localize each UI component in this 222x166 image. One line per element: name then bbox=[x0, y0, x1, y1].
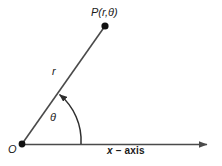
polar-diagram-canvas bbox=[0, 0, 222, 166]
x-axis-word: axis bbox=[124, 145, 144, 156]
polar-coordinates-figure: P(r,θ) r θ O x – axis bbox=[0, 0, 222, 166]
x-axis-dash: – bbox=[113, 145, 125, 156]
radius-label: r bbox=[52, 66, 56, 77]
radius-segment-line bbox=[22, 26, 105, 144]
origin-label: O bbox=[8, 144, 17, 155]
x-axis-label: x – axis bbox=[107, 146, 145, 156]
angle-arc bbox=[60, 95, 82, 145]
origin-dot bbox=[19, 141, 26, 148]
point-p-dot bbox=[101, 22, 108, 29]
point-p-label: P(r,θ) bbox=[91, 7, 118, 18]
angle-theta-label: θ bbox=[50, 112, 56, 123]
